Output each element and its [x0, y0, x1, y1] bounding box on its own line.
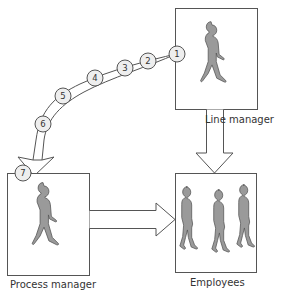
right-block-arrow	[90, 203, 176, 236]
step-7: 7	[15, 165, 31, 181]
step-4: 4	[87, 70, 103, 86]
employees-node	[176, 174, 257, 273]
employees-label: Employees	[190, 277, 245, 288]
svg-text:5: 5	[60, 91, 65, 101]
step-1: 1	[169, 46, 185, 62]
svg-text:6: 6	[40, 119, 45, 129]
line-manager-node	[176, 9, 258, 110]
line-manager-label: Line manager	[205, 114, 274, 125]
svg-text:3: 3	[122, 63, 127, 73]
step-5: 5	[55, 88, 71, 104]
svg-text:2: 2	[145, 56, 150, 66]
step-6: 6	[35, 116, 51, 132]
diagram-canvas: 1 2 3 4 5 6 7	[0, 0, 303, 299]
process-manager-node	[8, 174, 90, 276]
svg-text:1: 1	[174, 49, 179, 59]
svg-text:4: 4	[92, 73, 97, 83]
step-2: 2	[140, 53, 156, 69]
svg-text:7: 7	[20, 168, 25, 178]
process-manager-label: Process manager	[10, 279, 96, 290]
step-3: 3	[117, 60, 133, 76]
